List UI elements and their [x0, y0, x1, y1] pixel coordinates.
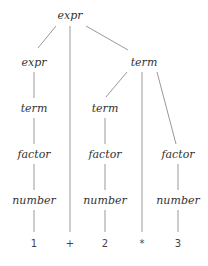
leaf-one: 1: [31, 239, 37, 249]
node-number-right: number: [156, 195, 199, 206]
edge-term-factor-r: [157, 72, 176, 144]
node-term-right: term: [131, 57, 158, 68]
leaf-two: 2: [102, 239, 108, 249]
node-number-left: number: [12, 195, 55, 206]
node-factor-middle: factor: [88, 149, 121, 160]
edge-root-expr: [38, 26, 56, 48]
node-factor-right: factor: [161, 149, 194, 160]
leaf-three: 3: [175, 239, 181, 249]
edge-root-term: [86, 26, 128, 50]
node-expr: expr: [21, 57, 46, 68]
tree-edges: [0, 0, 208, 266]
node-factor-left: factor: [17, 149, 50, 160]
leaf-star: *: [140, 239, 145, 249]
node-term-left: term: [21, 103, 48, 114]
leaf-plus: +: [66, 239, 74, 249]
node-term-middle: term: [92, 103, 119, 114]
parse-tree-diagram: expr expr term term term factor factor f…: [0, 0, 208, 266]
edge-term-term: [106, 72, 127, 97]
node-number-middle: number: [83, 195, 126, 206]
node-root-expr: expr: [57, 10, 82, 21]
